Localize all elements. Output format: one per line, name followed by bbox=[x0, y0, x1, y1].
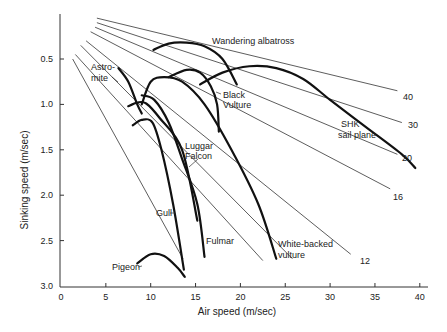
label-astromite-2: mite bbox=[91, 73, 108, 83]
label-wbv-1: White-backed bbox=[278, 239, 333, 249]
curve-pigeon bbox=[137, 254, 185, 277]
ratio-label-16: 16 bbox=[393, 192, 403, 202]
x-ticks: 0510152025303540 bbox=[58, 283, 424, 302]
x-tick-label: 10 bbox=[146, 292, 156, 302]
x-tick-label: 0 bbox=[58, 292, 63, 302]
x-tick-label: 40 bbox=[415, 292, 425, 302]
axes bbox=[60, 14, 428, 287]
label-luggar-falcon-1: Luggar bbox=[185, 141, 213, 151]
label-black-vulture-2: Vulture bbox=[223, 100, 251, 110]
label-pigeon: Pigeon bbox=[112, 262, 140, 272]
curve-white-backed-vulture bbox=[142, 77, 277, 259]
x-tick-label: 20 bbox=[235, 292, 245, 302]
glide-ratio-line-40 bbox=[97, 18, 397, 91]
y-tick-label: 2.5 bbox=[40, 236, 53, 246]
y-tick-label: 1.0 bbox=[40, 99, 53, 109]
x-tick-label: 5 bbox=[103, 292, 108, 302]
y-tick-label: 2.0 bbox=[40, 190, 53, 200]
label-albatross: Wandering albatross bbox=[212, 36, 295, 46]
label-fulmar: Fulmar bbox=[206, 236, 234, 246]
x-tick-label: 35 bbox=[370, 292, 380, 302]
species-curves bbox=[118, 42, 415, 276]
ratio-label-20: 20 bbox=[402, 153, 412, 163]
y-axis-label: Sinking speed (m/sec) bbox=[19, 131, 30, 230]
y-tick-label: 1.5 bbox=[40, 145, 53, 155]
x-tick-label: 15 bbox=[191, 292, 201, 302]
label-luggar-falcon-2: Falcon bbox=[185, 151, 212, 161]
label-shk-1: SHK bbox=[341, 119, 360, 129]
y-tick-label: 3.0 bbox=[40, 281, 53, 291]
x-axis-label: Air speed (m/sec) bbox=[198, 306, 276, 317]
curve-fulmar bbox=[142, 95, 205, 257]
y-tick-label: 0.5 bbox=[40, 54, 53, 64]
glide-polar-chart: 0510152025303540 0.51.01.52.02.53.0 Air … bbox=[0, 0, 447, 332]
ratio-label-12: 12 bbox=[360, 256, 370, 266]
curve-astromite bbox=[118, 68, 141, 113]
ratio-label-30: 30 bbox=[408, 120, 418, 130]
curve-luggar-falcon bbox=[128, 102, 197, 221]
ratio-label-40: 40 bbox=[403, 92, 413, 102]
label-shk-2: sail plane bbox=[338, 130, 376, 140]
label-gull: Gull bbox=[156, 208, 172, 218]
x-tick-label: 30 bbox=[325, 292, 335, 302]
label-black-vulture-1: Black bbox=[223, 90, 246, 100]
label-wbv-2: vulture bbox=[278, 250, 305, 260]
x-tick-label: 25 bbox=[280, 292, 290, 302]
label-astromite-1: Astro- bbox=[91, 62, 115, 72]
glide-ratio-line-unlabeled bbox=[73, 59, 183, 259]
